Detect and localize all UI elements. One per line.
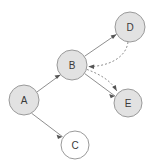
edge-b-to-e-arrowhead bbox=[109, 94, 115, 98]
node-a-circle[interactable] bbox=[9, 85, 39, 115]
node-d-circle[interactable] bbox=[115, 12, 145, 42]
node-b[interactable]: B bbox=[57, 50, 87, 80]
node-e-circle[interactable] bbox=[114, 89, 142, 117]
node-layer: A B C D E bbox=[9, 12, 145, 159]
edge-a-to-c bbox=[32, 113, 63, 139]
edge-b-to-e-curved-arrowhead bbox=[112, 85, 117, 91]
edge-b-to-e-curved bbox=[87, 69, 117, 91]
edge-b-to-e-line bbox=[85, 74, 116, 97]
edge-d-to-b-arrowhead bbox=[88, 65, 94, 69]
edge-b-to-d-line bbox=[85, 34, 117, 56]
node-c-circle[interactable] bbox=[61, 131, 89, 159]
edge-layer bbox=[32, 34, 129, 139]
node-b-circle[interactable] bbox=[57, 50, 87, 80]
edge-d-to-b-curve bbox=[88, 42, 128, 67]
edge-a-to-c-line bbox=[32, 113, 63, 137]
edge-b-to-e-curve bbox=[87, 69, 117, 91]
edge-b-to-e bbox=[85, 74, 116, 99]
node-e[interactable]: E bbox=[114, 89, 142, 117]
edge-b-to-d bbox=[85, 34, 117, 56]
node-c[interactable]: C bbox=[61, 131, 89, 159]
graph-canvas: A B C D E bbox=[0, 0, 154, 167]
edge-d-to-b bbox=[88, 42, 128, 69]
node-a[interactable]: A bbox=[9, 85, 39, 115]
diagram-svg: A B C D E bbox=[0, 0, 154, 167]
edge-a-to-b bbox=[37, 75, 61, 92]
node-d[interactable]: D bbox=[115, 12, 145, 42]
